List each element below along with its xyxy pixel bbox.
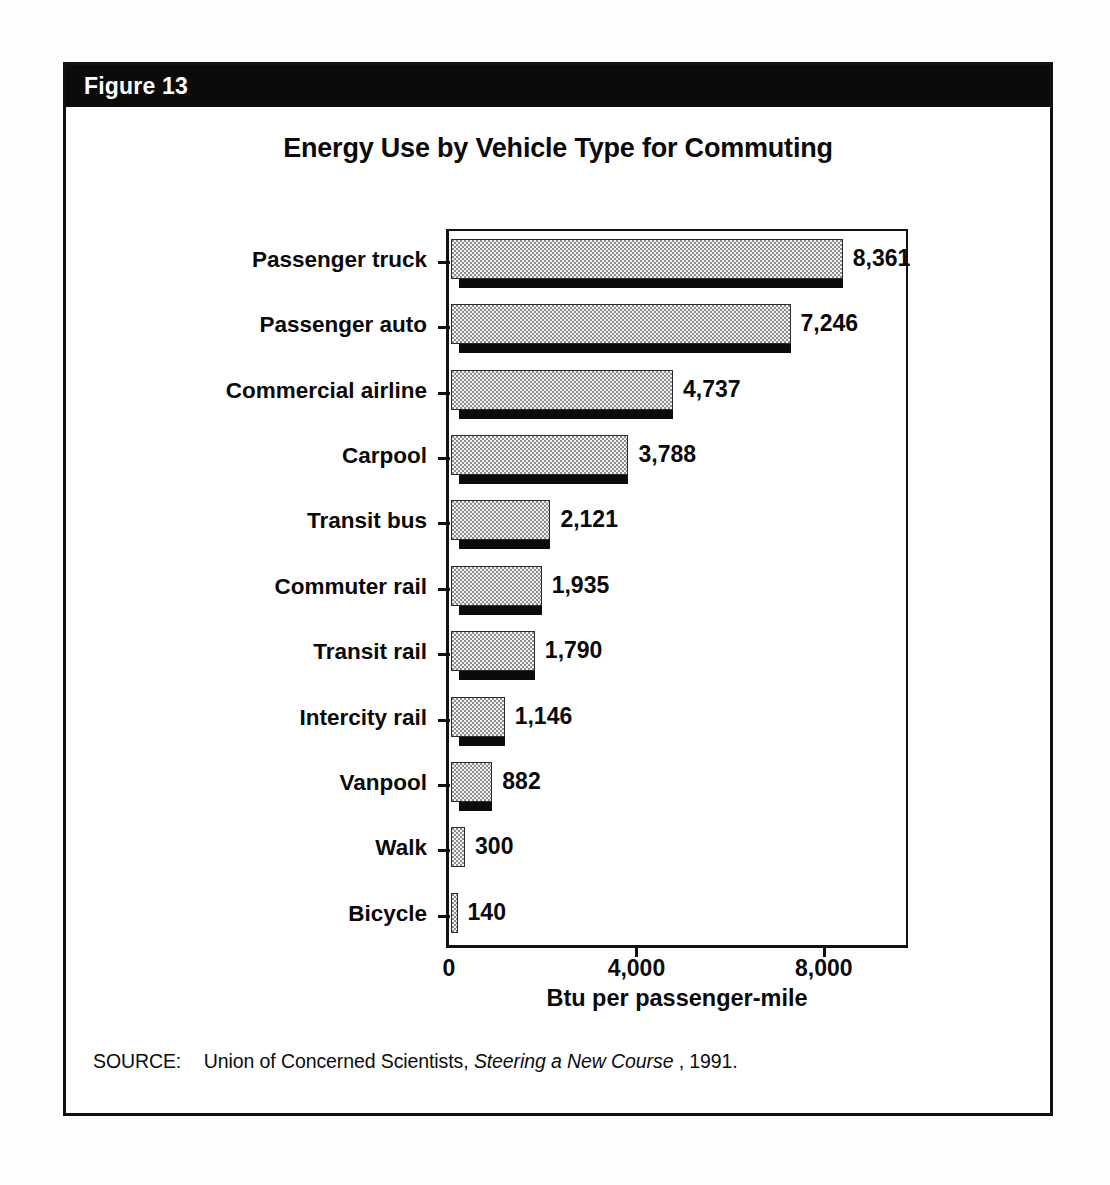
bar[interactable] — [451, 697, 505, 737]
plot-area: Passenger truck8,361Passenger auto7,246C… — [446, 229, 908, 948]
bar[interactable] — [451, 370, 673, 410]
bar-value-label: 1,935 — [552, 572, 610, 599]
bar-row: Transit bus2,121 — [449, 492, 906, 557]
bar-shadow — [459, 802, 492, 811]
bar-value-label: 882 — [502, 768, 540, 795]
y-axis-tick — [438, 653, 450, 656]
y-axis-tick — [438, 719, 450, 722]
category-label: Passenger auto — [259, 312, 427, 338]
bar[interactable] — [451, 631, 535, 671]
bar[interactable] — [451, 435, 628, 475]
bar[interactable] — [451, 239, 843, 279]
source-body-after: , 1991. — [679, 1050, 738, 1072]
bar-shadow — [459, 737, 505, 746]
bar-value-label: 140 — [468, 899, 506, 926]
y-axis-tick — [438, 784, 450, 787]
category-label: Transit bus — [307, 508, 427, 534]
bar-shadow — [459, 606, 542, 615]
bar-value-label: 1,146 — [515, 703, 573, 730]
bar-row: Commercial airline4,737 — [449, 362, 906, 427]
bar-shadow — [459, 279, 843, 288]
y-axis-tick — [438, 392, 450, 395]
bar-row: Intercity rail1,146 — [449, 689, 906, 754]
source-note: SOURCE: Union of Concerned Scientists, S… — [93, 1050, 738, 1073]
bar-shadow — [459, 344, 791, 353]
bar-value-label: 1,790 — [545, 637, 603, 664]
bar[interactable] — [451, 893, 458, 933]
bar-value-label: 7,246 — [801, 310, 859, 337]
bar-row: Passenger truck8,361 — [449, 231, 906, 296]
bar-value-label: 300 — [475, 833, 513, 860]
bar[interactable] — [451, 566, 542, 606]
bar-row: Passenger auto7,246 — [449, 296, 906, 361]
bar-shadow — [459, 475, 628, 484]
y-axis-tick — [438, 588, 450, 591]
category-label: Intercity rail — [299, 705, 427, 731]
bar-row: Transit rail1,790 — [449, 623, 906, 688]
bar-row: Carpool3,788 — [449, 427, 906, 492]
category-label: Vanpool — [339, 770, 427, 796]
bar[interactable] — [451, 500, 550, 540]
y-axis-tick — [438, 849, 450, 852]
bar[interactable] — [451, 762, 492, 802]
category-label: Bicycle — [348, 901, 427, 927]
category-label: Commuter rail — [274, 574, 427, 600]
x-axis-tick-label: 0 — [443, 955, 456, 982]
y-axis-tick — [438, 915, 450, 918]
category-label: Transit rail — [313, 639, 427, 665]
category-label: Commercial airline — [226, 378, 427, 404]
bar-value-label: 4,737 — [683, 376, 741, 403]
bar[interactable] — [451, 827, 465, 867]
bar-shadow — [459, 410, 673, 419]
figure-container: Figure 13 Energy Use by Vehicle Type for… — [63, 62, 1053, 1116]
bar-value-label: 8,361 — [853, 245, 911, 272]
category-label: Walk — [375, 835, 427, 861]
bar-shadow — [459, 671, 535, 680]
y-axis-tick — [438, 326, 450, 329]
source-publication-title: Steering a New Course — [474, 1050, 674, 1072]
y-axis-tick — [438, 261, 450, 264]
bar-value-label: 2,121 — [560, 506, 618, 533]
figure-number-label: Figure 13 — [84, 73, 188, 100]
bar-value-label: 3,788 — [638, 441, 696, 468]
source-label: SOURCE: — [93, 1050, 181, 1072]
category-label: Carpool — [342, 443, 427, 469]
bar-row: Bicycle140 — [449, 885, 906, 950]
bar[interactable] — [451, 304, 791, 344]
figure-header-bar: Figure 13 — [66, 65, 1050, 107]
x-axis-tick-label: 8,000 — [795, 955, 853, 982]
category-label: Passenger truck — [252, 247, 427, 273]
source-body-before: Union of Concerned Scientists, — [204, 1050, 469, 1072]
y-axis-tick — [438, 457, 450, 460]
x-axis-tick-label: 4,000 — [608, 955, 666, 982]
y-axis-tick — [438, 522, 450, 525]
bar-shadow — [459, 540, 550, 549]
x-axis-title: Btu per passenger-mile — [446, 985, 908, 1012]
bar-row: Vanpool882 — [449, 754, 906, 819]
bar-row: Commuter rail1,935 — [449, 558, 906, 623]
bar-row: Walk300 — [449, 819, 906, 884]
chart-title: Energy Use by Vehicle Type for Commuting — [66, 133, 1050, 164]
